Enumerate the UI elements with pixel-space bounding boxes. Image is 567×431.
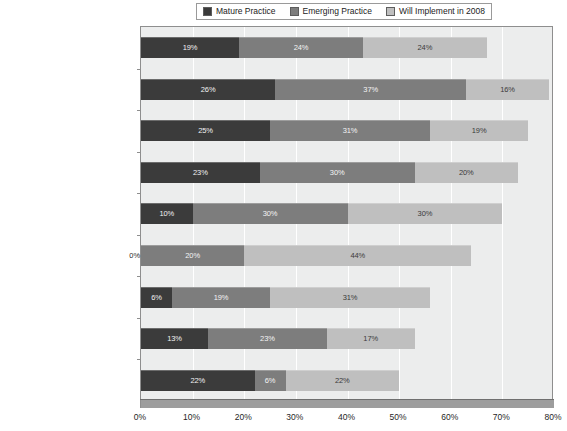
axis-base-shadow (140, 400, 554, 408)
bar-value-label: 26% (201, 86, 216, 94)
chart-row: Banking & Financial Service23%30%20% (141, 152, 552, 194)
bar-segment[interactable]: 22% (141, 370, 255, 391)
stacked-bar[interactable]: 13%23%17% (141, 328, 415, 349)
chart-row: Utilities & Energy10%30%30% (141, 193, 552, 235)
bar-value-label: 23% (193, 169, 208, 177)
chart-row: Telecom & Online Service25%31%19% (141, 110, 552, 152)
legend-swatch-icon (290, 7, 299, 16)
bar-segment[interactable]: 26% (141, 79, 275, 100)
stacked-bar[interactable]: 26%37%16% (141, 79, 549, 100)
bar-value-label: 17% (363, 335, 378, 343)
legend-label: Will Implement in 2008 (399, 7, 485, 16)
bar-value-label: 22% (335, 377, 350, 385)
bar-segment[interactable]: 30% (193, 203, 348, 224)
bar-segment[interactable]: 31% (270, 287, 430, 308)
bar-segment[interactable]: 24% (363, 37, 487, 58)
bar-value-label: 19% (214, 294, 229, 302)
stacked-bar-chart: Mature PracticeEmerging PracticeWill Imp… (0, 0, 567, 431)
y-axis-tick (137, 69, 141, 70)
bar-segment[interactable]: 19% (430, 120, 528, 141)
x-axis-tick-label: 0% (134, 412, 146, 422)
bar-segment[interactable]: 31% (270, 120, 430, 141)
stacked-bar[interactable]: 19%24%24% (141, 37, 487, 58)
x-axis-tick-label: 60% (441, 412, 458, 422)
bar-value-label: 0% (129, 252, 140, 260)
bar-value-label: 16% (500, 86, 515, 94)
bar-segment[interactable]: 6% (255, 370, 286, 391)
x-axis-line (140, 399, 554, 400)
bar-segment[interactable]: 23% (208, 328, 327, 349)
bar-segment[interactable]: 6% (141, 287, 172, 308)
bar-segment[interactable]: 13% (141, 328, 208, 349)
stacked-bar[interactable]: 10%30%30% (141, 203, 502, 224)
bar-segment[interactable]: 16% (466, 79, 549, 100)
chart-row: State & Municipal Government22%6%22% (141, 359, 552, 401)
bar-value-label: 23% (260, 335, 275, 343)
y-axis-tick (137, 318, 141, 319)
legend-label: Emerging Practice (303, 7, 372, 16)
chart-row: Survey Average19%24%24% (141, 27, 552, 69)
y-axis-tick (137, 235, 141, 236)
bar-value-label: 30% (263, 210, 278, 218)
bar-value-label: 19% (472, 127, 487, 135)
legend-entry[interactable]: Mature Practice (203, 7, 276, 16)
chart-row: Insurance26%37%16% (141, 69, 552, 111)
bar-segment[interactable]: 30% (348, 203, 503, 224)
bar-value-label: 25% (198, 127, 213, 135)
x-axis-tick-label: 80% (544, 412, 561, 422)
bar-value-label: 44% (350, 252, 365, 260)
bar-value-label: 20% (459, 169, 474, 177)
bar-value-label: 13% (167, 335, 182, 343)
legend-swatch-icon (386, 7, 395, 16)
y-axis-tick (137, 110, 141, 111)
x-axis-tick-label: 30% (286, 412, 303, 422)
bar-value-label: 31% (343, 127, 358, 135)
bar-value-label: 6% (151, 294, 162, 302)
x-axis-tick-label: 50% (390, 412, 407, 422)
bar-segment[interactable]: 24% (239, 37, 363, 58)
bar-value-label: 6% (265, 377, 276, 385)
legend-swatch-icon (203, 7, 212, 16)
bar-segment[interactable]: 19% (172, 287, 270, 308)
legend-entry[interactable]: Emerging Practice (290, 7, 372, 16)
bar-segment[interactable]: 10% (141, 203, 193, 224)
y-axis-tick (137, 276, 141, 277)
bar-segment[interactable]: 17% (327, 328, 415, 349)
bar-segment[interactable]: 30% (260, 162, 415, 183)
bar-value-label: 20% (185, 252, 200, 260)
stacked-bar[interactable]: 23%30%20% (141, 162, 518, 183)
bar-value-label: 24% (294, 44, 309, 52)
stacked-bar[interactable]: 0%20%44% (141, 245, 471, 266)
bar-segment[interactable]: 20% (141, 245, 244, 266)
chart-row: Manufacturing6%19%31% (141, 276, 552, 318)
bar-value-label: 31% (343, 294, 358, 302)
chart-legend: Mature PracticeEmerging PracticeWill Imp… (196, 3, 492, 20)
bar-segment[interactable]: 25% (141, 120, 270, 141)
bar-segment[interactable]: 20% (415, 162, 518, 183)
x-axis-tick-label: 10% (183, 412, 200, 422)
legend-entry[interactable]: Will Implement in 2008 (386, 7, 485, 16)
bar-segment[interactable]: 19% (141, 37, 239, 58)
chart-row: Federal Government (civilian, nondefense… (141, 318, 552, 360)
chart-row: Defense/Military0%20%44% (141, 235, 552, 277)
y-axis-tick (137, 193, 141, 194)
bar-segment[interactable]: 37% (275, 79, 466, 100)
bar-segment[interactable]: 22% (286, 370, 400, 391)
bar-segment[interactable]: 23% (141, 162, 260, 183)
bar-value-label: 10% (159, 210, 174, 218)
bar-value-label: 19% (183, 44, 198, 52)
x-axis-tick-label: 70% (493, 412, 510, 422)
y-axis-tick (137, 152, 141, 153)
bar-value-label: 30% (330, 169, 345, 177)
plot-area: Survey Average19%24%24%Insurance26%37%16… (140, 26, 553, 400)
bar-segment[interactable]: 44% (244, 245, 471, 266)
bar-value-label: 37% (363, 86, 378, 94)
bar-value-label: 30% (418, 210, 433, 218)
stacked-bar[interactable]: 6%19%31% (141, 287, 430, 308)
stacked-bar[interactable]: 22%6%22% (141, 370, 399, 391)
bar-value-label: 24% (418, 44, 433, 52)
stacked-bar[interactable]: 25%31%19% (141, 120, 528, 141)
x-axis-tick-label: 20% (235, 412, 252, 422)
x-axis-tick-label: 40% (338, 412, 355, 422)
legend-label: Mature Practice (216, 7, 276, 16)
